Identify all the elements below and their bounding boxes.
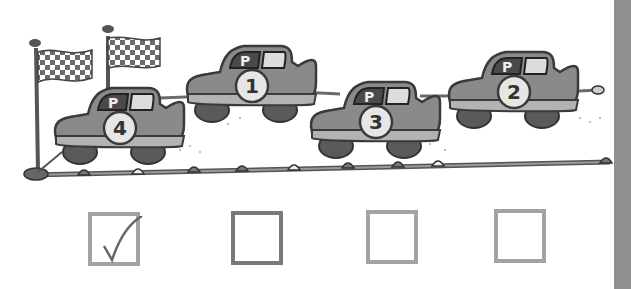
check-mark-icon xyxy=(92,216,144,270)
car-4-number: 4 xyxy=(113,116,127,140)
answer-box-4[interactable] xyxy=(494,209,546,263)
car-1-number: 1 xyxy=(245,74,259,98)
answer-box-3[interactable] xyxy=(366,210,418,264)
answer-box-2[interactable] xyxy=(231,211,283,265)
flag-right xyxy=(102,25,160,90)
car-3-number: 3 xyxy=(369,110,383,134)
answer-box-1[interactable] xyxy=(88,212,140,266)
track-rail xyxy=(24,152,612,180)
car-2-number: 2 xyxy=(507,80,521,104)
car-2: 2 xyxy=(449,52,578,128)
car-4: 4 xyxy=(55,88,184,164)
side-bar xyxy=(614,0,631,289)
car-1: 1 xyxy=(187,46,316,122)
